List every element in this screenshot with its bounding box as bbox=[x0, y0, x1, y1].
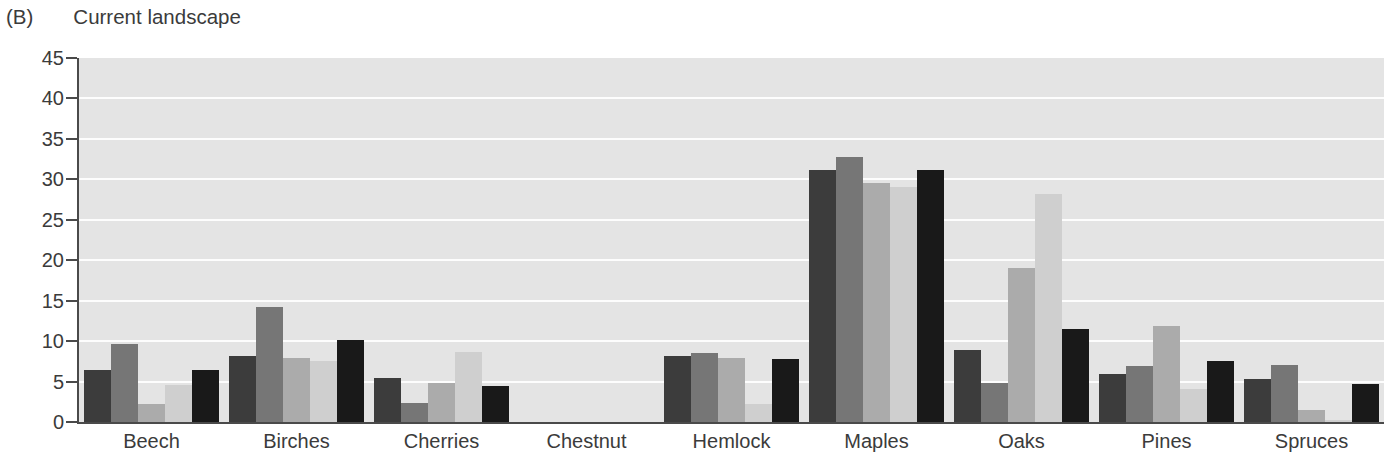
y-axis-tick-label: 45 bbox=[2, 48, 64, 68]
bar bbox=[283, 358, 310, 422]
y-axis-tick bbox=[66, 300, 77, 302]
x-axis-category-label: Spruces bbox=[1239, 426, 1384, 456]
x-axis-category-label: Beech bbox=[79, 426, 224, 456]
bar bbox=[455, 352, 482, 422]
bar bbox=[1325, 420, 1352, 422]
bar bbox=[718, 358, 745, 422]
y-axis-tick bbox=[66, 219, 77, 221]
x-axis-category-label: Cherries bbox=[369, 426, 514, 456]
x-axis-category-label: Hemlock bbox=[659, 426, 804, 456]
bar bbox=[1298, 410, 1325, 422]
y-axis-tick-label: 30 bbox=[2, 169, 64, 189]
bar bbox=[1035, 194, 1062, 422]
bar bbox=[954, 350, 981, 422]
bar bbox=[863, 183, 890, 422]
bar bbox=[374, 378, 401, 422]
bar bbox=[1008, 268, 1035, 422]
y-axis-tick bbox=[66, 97, 77, 99]
bar bbox=[917, 170, 944, 422]
bar bbox=[1099, 374, 1126, 422]
y-axis-tick-label: 35 bbox=[2, 129, 64, 149]
bar bbox=[84, 370, 111, 422]
x-axis-category-label: Birches bbox=[224, 426, 369, 456]
bars-layer bbox=[79, 58, 1384, 422]
y-axis-tick bbox=[66, 340, 77, 342]
bar bbox=[1244, 379, 1271, 422]
bar bbox=[111, 344, 138, 422]
x-axis-category-label: Chestnut bbox=[514, 426, 659, 456]
x-category-label-group: BeechBirchesCherriesChestnutHemlockMaple… bbox=[79, 426, 1384, 460]
y-tick-label-group: 051015202530354045 bbox=[0, 0, 64, 463]
x-axis-category-label: Pines bbox=[1094, 426, 1239, 456]
bar bbox=[1180, 389, 1207, 422]
y-axis-tick bbox=[66, 259, 77, 261]
bar bbox=[1153, 326, 1180, 422]
bar bbox=[165, 385, 192, 422]
bar bbox=[691, 353, 718, 422]
bar bbox=[772, 359, 799, 422]
bar bbox=[310, 361, 337, 422]
y-axis-tick bbox=[66, 57, 77, 59]
bar bbox=[1126, 366, 1153, 422]
y-axis-tick bbox=[66, 381, 77, 383]
y-axis-tick-label: 15 bbox=[2, 291, 64, 311]
bar bbox=[482, 386, 509, 422]
y-axis-tick bbox=[66, 421, 77, 423]
bar bbox=[664, 356, 691, 422]
chart-figure: (B) Current landscape Relative abundance… bbox=[0, 0, 1384, 463]
bar bbox=[1271, 365, 1298, 422]
bar bbox=[1352, 384, 1379, 422]
y-axis-tick bbox=[66, 138, 77, 140]
bar bbox=[890, 187, 917, 422]
bar bbox=[229, 356, 256, 422]
bar bbox=[745, 404, 772, 422]
y-axis-tick bbox=[66, 178, 77, 180]
bar bbox=[836, 157, 863, 422]
x-axis-category-label: Oaks bbox=[949, 426, 1094, 456]
bar bbox=[401, 403, 428, 422]
bar bbox=[981, 383, 1008, 422]
bar bbox=[256, 307, 283, 422]
bar bbox=[192, 370, 219, 422]
x-axis-category-label: Maples bbox=[804, 426, 949, 456]
bar bbox=[337, 340, 364, 423]
bar bbox=[809, 170, 836, 422]
bar bbox=[1207, 361, 1234, 422]
bar bbox=[1062, 329, 1089, 422]
y-axis-tick-label: 40 bbox=[2, 88, 64, 108]
x-axis-line bbox=[77, 422, 1384, 424]
bar bbox=[138, 404, 165, 422]
y-axis-tick-label: 20 bbox=[2, 250, 64, 270]
y-axis-tick-label: 5 bbox=[2, 372, 64, 392]
y-axis-tick-label: 0 bbox=[2, 412, 64, 432]
bar bbox=[428, 383, 455, 422]
panel-title: Current landscape bbox=[73, 5, 241, 29]
y-axis-tick-label: 25 bbox=[2, 210, 64, 230]
y-axis-tick-label: 10 bbox=[2, 331, 64, 351]
